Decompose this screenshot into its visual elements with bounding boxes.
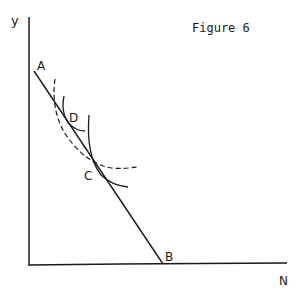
figure-title: Figure 6 [192,21,250,35]
point-label-a: A [37,59,46,73]
indifference-curve-c [89,115,129,187]
budget-line-ab [34,71,163,264]
x-axis [29,263,287,265]
dashed-curve [54,79,137,168]
x-axis-label: N [279,274,288,288]
y-axis-label: y [11,13,19,28]
point-label-c: C [84,169,92,183]
point-label-b: B [165,250,173,264]
point-label-d: D [69,111,78,125]
figure-6-diagram: Figure 6 y N A D C B [0,0,301,292]
